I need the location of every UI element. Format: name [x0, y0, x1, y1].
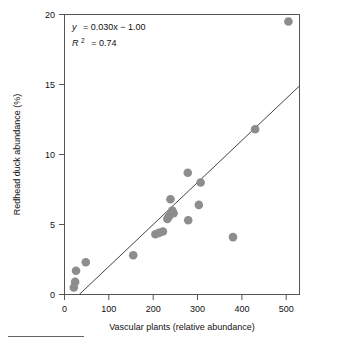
data-point [229, 233, 238, 242]
svg-text:y = 0.030x − 1.00: y = 0.030x − 1.00 [71, 22, 146, 32]
equation-y-symbol: y [71, 22, 77, 32]
data-point [166, 195, 175, 204]
scatter-plot: 20 15 10 5 0 0 100 200 300 400 500 Vascu… [0, 0, 338, 345]
y-tick-label: 5 [50, 220, 55, 230]
data-point [72, 266, 81, 275]
regression-line [79, 86, 299, 295]
data-point [284, 17, 293, 26]
data-point [71, 278, 80, 287]
x-tick-label: 400 [234, 304, 249, 314]
data-points [70, 17, 293, 292]
x-tick-label: 200 [146, 304, 161, 314]
y-axis-tick-labels: 20 15 10 5 0 [45, 10, 55, 300]
x-tick-label: 0 [62, 304, 67, 314]
x-axis-tick-labels: 0 100 200 300 400 500 [62, 304, 294, 314]
data-point [81, 258, 90, 267]
y-axis-ticks [59, 15, 65, 295]
equation-body: = 0.030x − 1.00 [83, 22, 146, 32]
x-tick-label: 100 [101, 304, 116, 314]
data-point [129, 251, 138, 260]
data-point [196, 178, 205, 187]
svg-text:R 2 = 0.74: R 2 = 0.74 [72, 35, 116, 49]
data-point [195, 201, 204, 210]
data-point [251, 125, 260, 134]
y-axis-title: Redhead duck abundance (%) [12, 94, 22, 216]
data-point [183, 168, 192, 177]
data-point [184, 216, 193, 225]
r-squared-exponent: 2 [81, 37, 85, 44]
r-squared-value: = 0.74 [91, 38, 116, 48]
y-tick-label: 10 [45, 150, 55, 160]
y-tick-label: 15 [45, 80, 55, 90]
x-tick-label: 500 [279, 304, 294, 314]
r-squared-symbol: R [72, 38, 79, 48]
data-point [168, 206, 177, 215]
data-point [159, 227, 168, 236]
figure-container: 20 15 10 5 0 0 100 200 300 400 500 Vascu… [0, 0, 338, 345]
regression-line-path [79, 86, 299, 295]
x-axis-title: Vascular plants (relative abundance) [109, 322, 254, 332]
x-tick-label: 300 [190, 304, 205, 314]
x-axis-ticks [65, 295, 287, 301]
plot-frame [65, 15, 300, 295]
y-tick-label: 20 [45, 10, 55, 20]
y-tick-label: 0 [50, 290, 55, 300]
regression-annotation: y = 0.030x − 1.00 R 2 = 0.74 [71, 22, 146, 48]
